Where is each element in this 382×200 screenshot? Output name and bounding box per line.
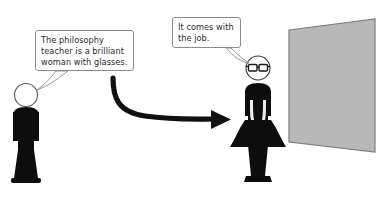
speech-bubble-right: It comes with the job. bbox=[172, 17, 241, 48]
illustration-scene: The philosophy teacher is a brilliant wo… bbox=[0, 0, 382, 200]
speech-bubble-right-text: It comes with the job. bbox=[178, 22, 235, 44]
speech-bubble-left-text: The philosophy teacher is a brilliant wo… bbox=[41, 35, 128, 69]
right-bubble-tail bbox=[226, 48, 249, 63]
left-bubble-tail bbox=[37, 71, 68, 90]
speech-bubble-left: The philosophy teacher is a brilliant wo… bbox=[35, 30, 134, 71]
